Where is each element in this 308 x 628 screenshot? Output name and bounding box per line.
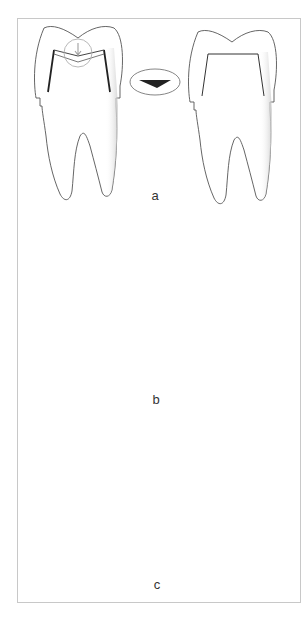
panel-label-b: b bbox=[146, 393, 166, 407]
tooth-right-a bbox=[188, 30, 276, 203]
panel-a bbox=[34, 26, 276, 203]
panel-label-a: a bbox=[145, 189, 165, 203]
panel-label-c: c bbox=[147, 578, 167, 592]
symbol-a bbox=[130, 69, 180, 95]
tooth-left-a bbox=[34, 26, 122, 199]
dental-figure bbox=[0, 0, 308, 628]
